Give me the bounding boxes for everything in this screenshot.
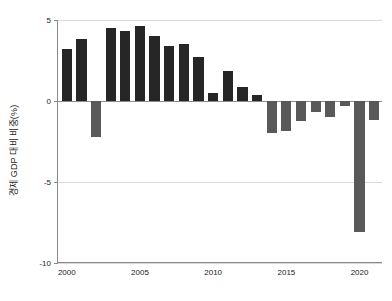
y-axis-label: 경제 GDP 대비 비중(%)	[0, 0, 26, 301]
bar-2008	[179, 44, 189, 101]
y-tick-mark	[54, 263, 58, 264]
gridline-y	[58, 182, 382, 183]
gridline-y	[58, 263, 382, 264]
x-tick-label: 2005	[131, 268, 149, 277]
bar-2021	[369, 101, 379, 120]
bar-2014	[267, 101, 277, 133]
bar-2018	[325, 101, 335, 117]
gridline-y	[58, 20, 382, 21]
bar-2019	[340, 101, 350, 106]
bar-2016	[296, 101, 306, 121]
bar-2009	[193, 57, 203, 101]
bar-2015	[281, 101, 291, 131]
bar-2011	[223, 71, 233, 101]
bar-2013	[252, 95, 262, 101]
bar-2004	[120, 31, 130, 101]
y-tick-mark	[54, 20, 58, 21]
x-tick-label: 2000	[58, 268, 76, 277]
plot-area: 50-5-1020002005201020152020	[57, 20, 382, 263]
chart-container: 경제 GDP 대비 비중(%) 50-5-1020002005201020152…	[0, 0, 392, 301]
y-tick-mark	[54, 101, 58, 102]
x-tick-label: 2015	[277, 268, 295, 277]
plot-inner: 50-5-1020002005201020152020	[58, 20, 382, 262]
bar-2003	[106, 28, 116, 101]
bar-2007	[164, 46, 174, 101]
y-tick-label: -10	[39, 259, 51, 268]
x-tick-label: 2010	[204, 268, 222, 277]
x-tick-label: 2020	[351, 268, 369, 277]
bar-2017	[311, 101, 321, 112]
bar-2005	[135, 26, 145, 101]
bar-2002	[91, 101, 101, 137]
y-tick-mark	[54, 182, 58, 183]
bar-2012	[237, 87, 247, 101]
bar-2006	[149, 36, 159, 101]
y-tick-label: -5	[44, 178, 51, 187]
bar-2010	[208, 93, 218, 101]
bar-2020	[354, 101, 364, 232]
bar-2000	[62, 49, 72, 101]
y-tick-label: 5	[47, 16, 51, 25]
y-tick-label: 0	[47, 97, 51, 106]
bar-2001	[76, 39, 86, 101]
